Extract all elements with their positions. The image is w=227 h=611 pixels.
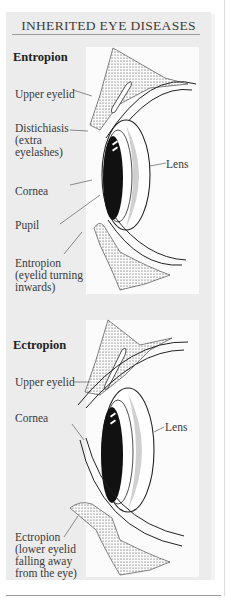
label-ectropion-4: from the eye) <box>15 567 77 580</box>
bottom-divider <box>6 595 221 596</box>
label-lens-2: Lens <box>165 421 187 434</box>
ectropion-diagram <box>0 0 227 611</box>
label-upper-eyelid-2: Upper eyelid <box>15 376 75 389</box>
label-ectropion: Ectropion <box>15 531 60 544</box>
label-ectropion-3: falling away <box>15 555 72 568</box>
label-ectropion-2: (lower eyelid <box>15 543 76 556</box>
label-cornea-2: Cornea <box>15 412 48 425</box>
